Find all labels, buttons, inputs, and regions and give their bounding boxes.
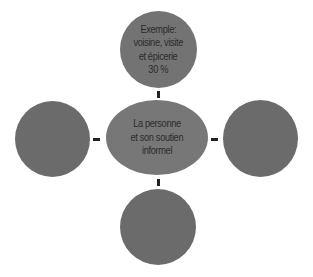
top-node-line-3: et épicerie (139, 50, 178, 64)
center-node-line-3: informel (142, 144, 172, 158)
connector-bottom (157, 179, 160, 186)
top-node-line-1: Exemple: (141, 23, 177, 37)
center-node-line-1: La personne (133, 117, 181, 131)
right-node-circle (223, 100, 298, 177)
top-node-line-2: voisine, visite (134, 36, 184, 50)
center-node-line-2: et son soutien (131, 131, 184, 145)
top-node-line-4: 30 % (149, 63, 169, 77)
connector-right (211, 138, 218, 141)
bottom-node-circle (120, 189, 196, 265)
top-node-circle: Exemple: voisine, visite et épicerie 30 … (120, 11, 197, 88)
center-node-ellipse: La personne et son soutien informel (106, 100, 208, 175)
connector-left (93, 138, 100, 141)
connector-top (157, 91, 160, 98)
left-node-circle (15, 101, 90, 177)
